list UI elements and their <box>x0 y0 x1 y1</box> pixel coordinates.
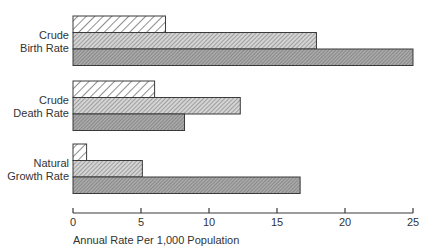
bar-hatch-dark <box>73 114 185 131</box>
bar-chart: CrudeBirth RateCrudeDeath RateNaturalGro… <box>0 0 436 250</box>
bar-hatch-medium <box>73 161 142 178</box>
category-label: Birth Rate <box>20 42 69 54</box>
category-label: Growth Rate <box>7 170 69 182</box>
x-axis-title: Annual Rate Per 1,000 Population <box>73 234 239 246</box>
bar-hatch-dark <box>73 177 300 194</box>
category-label: Natural <box>34 157 69 169</box>
bar-hatch-dark <box>73 49 413 66</box>
bar-hatch-light <box>73 144 87 161</box>
x-tick-label: 25 <box>407 216 419 228</box>
x-axis: 0510152025 <box>70 208 419 228</box>
bar-hatch-medium <box>73 33 316 50</box>
x-tick-label: 10 <box>203 216 215 228</box>
category-label: Death Rate <box>13 107 69 119</box>
bars-group <box>73 16 413 194</box>
category-labels: CrudeBirth RateCrudeDeath RateNaturalGro… <box>7 29 69 182</box>
bar-hatch-light <box>73 81 155 98</box>
x-tick-label: 5 <box>138 216 144 228</box>
bar-hatch-light <box>73 16 165 33</box>
bar-hatch-medium <box>73 98 240 115</box>
category-label: Crude <box>39 94 69 106</box>
x-tick-label: 15 <box>271 216 283 228</box>
x-tick-label: 0 <box>70 216 76 228</box>
x-tick-label: 20 <box>339 216 351 228</box>
category-label: Crude <box>39 29 69 41</box>
